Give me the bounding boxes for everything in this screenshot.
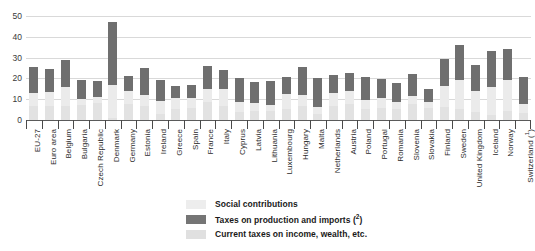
bar-segment [187, 108, 196, 120]
bar-slot[interactable] [452, 16, 468, 120]
bar-slot[interactable] [231, 16, 247, 120]
stacked-bar[interactable] [250, 82, 259, 120]
bar-slot[interactable] [26, 16, 42, 120]
bar-slot[interactable] [499, 16, 515, 120]
stacked-bar[interactable] [519, 77, 528, 120]
bar-slot[interactable] [436, 16, 452, 120]
y-tick-label: 20 [0, 74, 22, 83]
bar-segment [171, 86, 180, 98]
bar-segment [345, 91, 354, 105]
stacked-bar[interactable] [45, 69, 54, 120]
x-label-slot: Italy [215, 129, 231, 191]
bar-segment [219, 70, 228, 89]
stacked-bar[interactable] [392, 83, 401, 120]
stacked-bar[interactable] [471, 65, 480, 120]
stacked-bar[interactable] [171, 86, 180, 120]
stacked-bar[interactable] [361, 77, 370, 120]
stacked-bar[interactable] [203, 66, 212, 120]
bar-segment [377, 108, 386, 120]
stacked-bar[interactable] [266, 81, 275, 121]
stacked-bar[interactable] [140, 68, 149, 120]
legend-item[interactable]: Current taxes on income, wealth, etc. [186, 227, 486, 241]
x-tick-label: Finland [444, 129, 452, 156]
bar-slot[interactable] [515, 16, 531, 120]
bar-slot[interactable] [89, 16, 105, 120]
bar-slot[interactable] [105, 16, 121, 120]
stacked-bar[interactable] [282, 77, 291, 120]
bar-slot[interactable] [468, 16, 484, 120]
stacked-bar[interactable] [313, 78, 322, 120]
bar-segment [187, 98, 196, 107]
stacked-bar[interactable] [298, 67, 307, 120]
stacked-bar[interactable] [455, 45, 464, 120]
bar-slot[interactable] [484, 16, 500, 120]
x-tick-label: Portugal [381, 129, 389, 160]
bar-segment [345, 73, 354, 91]
bar-segment [440, 107, 449, 120]
stacked-bar[interactable] [235, 78, 244, 120]
bar-slot[interactable] [215, 16, 231, 120]
stacked-bar[interactable] [77, 80, 86, 120]
bar-slot[interactable] [279, 16, 295, 120]
bar-slot[interactable] [294, 16, 310, 120]
stacked-bar[interactable] [424, 89, 433, 120]
y-tick-label: 40 [0, 33, 22, 42]
stacked-bar[interactable] [108, 22, 117, 120]
bar-slot[interactable] [136, 16, 152, 120]
x-tick-label: Denmark [113, 129, 121, 162]
bar-segment [235, 102, 244, 111]
bar-slot[interactable] [247, 16, 263, 120]
bar-segment [250, 82, 259, 104]
x-label-slot: Slovenia [405, 129, 421, 191]
bar-slot[interactable] [168, 16, 184, 120]
stacked-bar[interactable] [61, 60, 70, 120]
bar-slot[interactable] [263, 16, 279, 120]
stacked-bar[interactable] [156, 80, 165, 120]
x-axis-labels: EU-27Euro areaBelgiumBulgariaCzech Repub… [26, 129, 531, 191]
bar-slot[interactable] [310, 16, 326, 120]
stacked-bar[interactable] [329, 75, 338, 120]
stacked-bar[interactable] [219, 70, 228, 120]
stacked-bar[interactable] [124, 76, 133, 120]
bar-slot[interactable] [152, 16, 168, 120]
stacked-bar[interactable] [345, 73, 354, 120]
stacked-bar[interactable] [503, 49, 512, 120]
stacked-bar[interactable] [29, 67, 38, 120]
bar-segment [203, 66, 212, 88]
x-tick-label: Lithuania [271, 129, 279, 162]
bar-slot[interactable] [342, 16, 358, 120]
x-tick-label: Austria [350, 129, 358, 155]
stacked-bar[interactable] [93, 81, 102, 120]
bar-slot[interactable] [373, 16, 389, 120]
x-label-slot: Finland [436, 129, 452, 191]
bar-segment [503, 80, 512, 110]
x-label-slot: Romania [389, 129, 405, 191]
bar-slot[interactable] [42, 16, 58, 120]
bar-slot[interactable] [73, 16, 89, 120]
legend-item[interactable]: Social contributions [186, 197, 486, 211]
stacked-bar[interactable] [377, 79, 386, 120]
bar-segment [108, 22, 117, 84]
bar-slot[interactable] [184, 16, 200, 120]
bar-slot[interactable] [121, 16, 137, 120]
bar-slot[interactable] [389, 16, 405, 120]
stacked-bar[interactable] [487, 51, 496, 120]
x-tick-label: Slovenia [413, 129, 421, 161]
x-tick-label: Bulgaria [81, 129, 89, 159]
bar-slot[interactable] [405, 16, 421, 120]
stacked-bar[interactable] [408, 74, 417, 120]
stacked-bar[interactable] [187, 85, 196, 120]
bar-slot[interactable] [58, 16, 74, 120]
bar-slot[interactable] [421, 16, 437, 120]
y-axis-labels: 01020304050 [0, 16, 22, 120]
bar-slot[interactable] [357, 16, 373, 120]
bar-segment [45, 106, 54, 120]
bar-slot[interactable] [326, 16, 342, 120]
legend-swatch [186, 215, 206, 224]
stacked-bar[interactable] [440, 59, 449, 120]
x-label-slot: Euro area [42, 129, 58, 191]
bar-slot[interactable] [200, 16, 216, 120]
legend-item[interactable]: Taxes on production and imports (2) [186, 212, 486, 226]
x-tick-label: Euro area [50, 129, 58, 165]
